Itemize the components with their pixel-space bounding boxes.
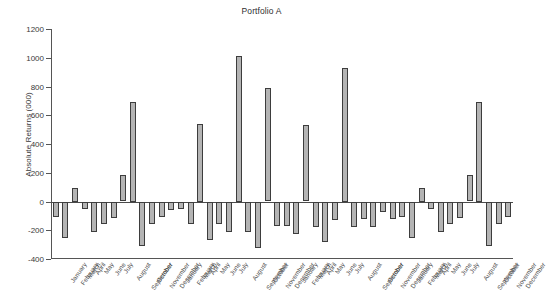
bar xyxy=(53,202,59,217)
x-tick-label: August xyxy=(250,261,267,282)
bar xyxy=(496,202,502,225)
bar xyxy=(207,202,213,240)
bar xyxy=(390,202,396,220)
bar xyxy=(303,125,309,201)
bar xyxy=(380,202,386,213)
bar xyxy=(255,202,261,249)
bar xyxy=(120,175,126,201)
bar xyxy=(101,202,107,224)
bar xyxy=(332,202,338,221)
plot-area: -400-200020040060080010001200 xyxy=(51,29,513,259)
bar xyxy=(351,202,357,228)
y-tick-label: 1200 xyxy=(26,25,44,34)
bar xyxy=(82,202,88,210)
bar xyxy=(91,202,97,232)
bar xyxy=(168,202,174,211)
bar xyxy=(62,202,68,239)
bar xyxy=(265,88,271,201)
bar xyxy=(370,202,376,227)
bar xyxy=(505,202,511,217)
bar xyxy=(457,202,463,219)
chart-title: Portfolio A xyxy=(0,6,523,16)
bar xyxy=(149,202,155,225)
y-axis-label: Absolute Returns (000) xyxy=(24,55,33,215)
bar xyxy=(313,202,319,228)
y-tick-label: 600 xyxy=(31,111,44,120)
bar xyxy=(236,56,242,201)
bar xyxy=(428,202,434,210)
y-tick-label: 1000 xyxy=(26,53,44,62)
bar xyxy=(72,188,78,202)
bar xyxy=(130,102,136,202)
bar xyxy=(188,202,194,225)
x-tick-label: August xyxy=(366,261,383,282)
bar xyxy=(139,202,145,247)
bar xyxy=(274,202,280,226)
x-tick-label: August xyxy=(135,261,152,282)
bar xyxy=(226,202,232,233)
bar xyxy=(409,202,415,239)
x-tick-label: August xyxy=(481,261,498,282)
bar xyxy=(159,202,165,217)
bar xyxy=(216,202,222,225)
y-tick-label: 200 xyxy=(31,168,44,177)
bar xyxy=(467,175,473,201)
bar xyxy=(293,202,299,235)
bar xyxy=(322,202,328,243)
bar-series xyxy=(51,29,513,259)
bar xyxy=(245,202,251,233)
bar xyxy=(284,202,290,226)
y-tick-label: 800 xyxy=(31,82,44,91)
bar xyxy=(447,202,453,224)
bar xyxy=(486,202,492,247)
y-tick-mark xyxy=(46,259,51,260)
bar xyxy=(419,188,425,202)
y-tick-label: -400 xyxy=(28,255,44,264)
bar xyxy=(361,202,367,219)
bar xyxy=(476,102,482,202)
bar xyxy=(178,202,184,209)
y-tick-label: -200 xyxy=(28,226,44,235)
bar xyxy=(438,202,444,232)
bar xyxy=(342,68,348,202)
bar xyxy=(111,202,117,219)
y-tick-label: 400 xyxy=(31,140,44,149)
bar xyxy=(197,124,203,202)
bar xyxy=(399,202,405,217)
x-axis-labels: JanuaryFebruaryMarchAprilMayJuneJulyAugu… xyxy=(51,261,513,302)
y-tick-label: 0 xyxy=(40,197,44,206)
